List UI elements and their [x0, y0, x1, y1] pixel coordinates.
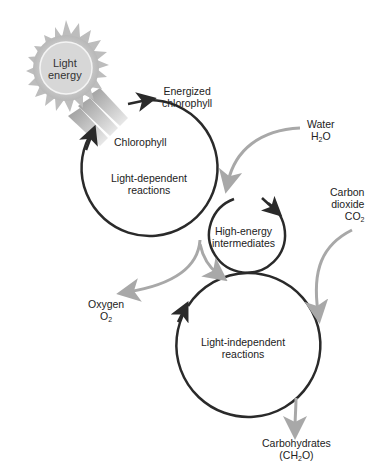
label-line: Carbon — [330, 186, 364, 198]
label-line: Carbohydrates — [262, 437, 331, 449]
co2-flow-arrow — [316, 230, 352, 312]
water-formula: H2O — [307, 130, 335, 146]
label-line: Light-independent — [201, 336, 285, 348]
label-text: CO — [345, 210, 361, 222]
sun-label: Light energy — [48, 57, 82, 81]
label-line: Light-dependent — [111, 172, 187, 184]
label-line: High-energy — [212, 225, 275, 237]
light-independent-label: Light-independent reactions — [201, 336, 285, 360]
chlorophyll-label: Chlorophyll — [114, 136, 167, 148]
light-dependent-label: Light-dependent reactions — [111, 172, 187, 196]
label-line: Oxygen — [88, 298, 124, 310]
subscript: 2 — [361, 216, 365, 223]
carbohydrate-formula: (CH2O) — [262, 449, 331, 465]
high-energy-label: High-energy intermediates — [212, 225, 275, 249]
label-text: O) — [302, 449, 314, 461]
sun-label-line2: energy — [48, 69, 82, 81]
label-text: O — [322, 130, 330, 142]
co2-label: Carbon dioxide CO2 — [330, 186, 364, 226]
label-text: O — [100, 310, 108, 322]
energized-chlorophyll-label: Energized chlorophyll — [162, 85, 212, 109]
label-line: Energized — [162, 85, 212, 97]
high-energy-arrow — [262, 198, 275, 210]
water-flow-arrow — [228, 128, 300, 182]
sun-label-line1: Light — [48, 57, 82, 69]
label-line: dioxide — [330, 198, 364, 210]
co2-formula: CO2 — [330, 210, 364, 226]
label-line: reactions — [201, 348, 285, 360]
label-line: intermediates — [212, 237, 275, 249]
oxygen-formula: O2 — [88, 310, 124, 326]
label-line: Water — [307, 118, 335, 130]
label-text: H — [311, 130, 319, 142]
cycle-arrow-top — [128, 100, 147, 104]
water-label: Water H2O — [307, 118, 335, 146]
carbohydrate-flow-arrow — [295, 398, 296, 428]
label-line: reactions — [111, 184, 187, 196]
oxygen-label: Oxygen O2 — [88, 298, 124, 326]
label-line: chlorophyll — [162, 97, 212, 109]
label-text: (CH — [279, 449, 298, 461]
subscript: 2 — [108, 316, 112, 323]
carbohydrates-label: Carbohydrates (CH2O) — [262, 437, 331, 465]
oxygen-flow-arrow — [128, 240, 200, 292]
